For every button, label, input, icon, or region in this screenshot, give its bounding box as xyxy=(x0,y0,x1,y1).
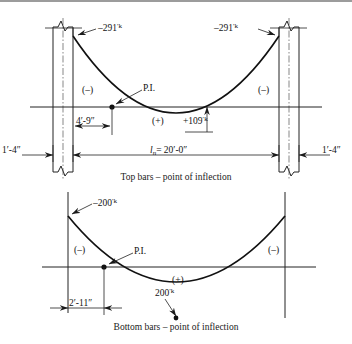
bottom-moment-curve xyxy=(68,216,285,282)
top-pi-label: P.I. xyxy=(143,83,155,93)
right-column-top xyxy=(279,18,299,180)
top-midspan-moment-label: +109′k xyxy=(183,115,208,126)
bottom-midspan-point xyxy=(174,316,179,321)
top-negative-left-sign: (–) xyxy=(82,85,93,96)
bottom-left-moment-leader xyxy=(72,204,92,214)
top-moment-curve xyxy=(73,36,279,113)
bottom-diagram: P.I. –200′k (–) (–) (+) 200′k 2′-11″ Bot… xyxy=(42,192,316,332)
bottom-pi-label: P.I. xyxy=(134,246,146,256)
figure-canvas: P.I. –291′k –291′k (–) (–) (+) +109′k 4′… xyxy=(0,0,352,344)
bottom-diagram-caption: Bottom bars – point of inflection xyxy=(114,322,239,332)
bottom-negative-left-sign: (–) xyxy=(74,245,85,256)
top-diagram-caption: Top bars – point of inflection xyxy=(121,172,232,182)
bottom-positive-sign: (+) xyxy=(172,275,184,286)
bottom-midspan-leader xyxy=(165,299,176,316)
top-positive-sign: (+) xyxy=(152,116,164,127)
top-pi-distance-label: 4′-9″ xyxy=(76,116,95,126)
top-left-moment-label: –291′k xyxy=(97,22,123,33)
top-left-moment-leader xyxy=(78,29,96,35)
top-right-moment-label: –291′k xyxy=(213,22,239,33)
bottom-negative-right-sign: (–) xyxy=(268,245,279,256)
top-right-column-width-label: 1′-4″ xyxy=(322,145,341,155)
bottom-pi-distance-label: 2′-11″ xyxy=(69,298,92,308)
top-diagram: P.I. –291′k –291′k (–) (–) (+) +109′k 4′… xyxy=(2,18,341,182)
left-column-top xyxy=(53,18,73,180)
bottom-midspan-moment-label: 200′k xyxy=(155,287,175,298)
top-right-moment-leader xyxy=(258,29,275,35)
top-negative-right-sign: (–) xyxy=(258,85,269,96)
diagram-svg: P.I. –291′k –291′k (–) (–) (+) +109′k 4′… xyxy=(0,0,352,344)
top-left-column-width-label: 1′-4″ xyxy=(2,145,21,155)
bottom-left-moment-label: –200′k xyxy=(92,197,118,208)
